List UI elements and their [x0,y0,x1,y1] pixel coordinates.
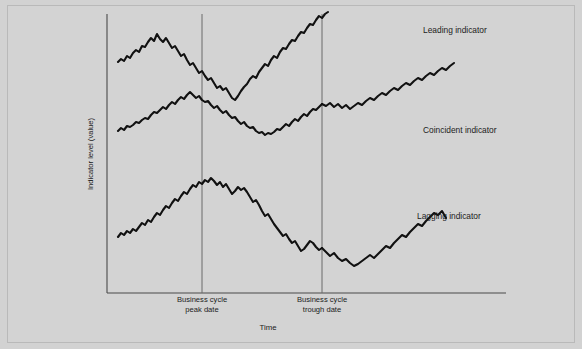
y-axis-title: Indicator level (value) [86,117,95,190]
event-label-trough-line1: Business cycle [297,295,347,304]
event-label-trough-line2: trough date [303,305,341,314]
x-axis-title: Time [259,323,276,332]
series-line-leading [118,12,328,100]
event-label-peak-line2: peak date [185,305,218,314]
series-label-lagging: Lagging indicator [417,211,481,221]
event-label-peak-line1: Business cycle [177,295,227,304]
series-line-lagging [118,178,322,251]
business-cycle-indicator-chart: Leading indicator Coincident indicator L… [0,0,582,349]
series-label-coincident: Coincident indicator [423,125,497,135]
figure-canvas: Leading indicator Coincident indicator L… [0,0,582,349]
series-label-leading: Leading indicator [423,25,487,35]
series-line-coincident [118,92,322,135]
series-line-coincident-right [322,63,454,109]
